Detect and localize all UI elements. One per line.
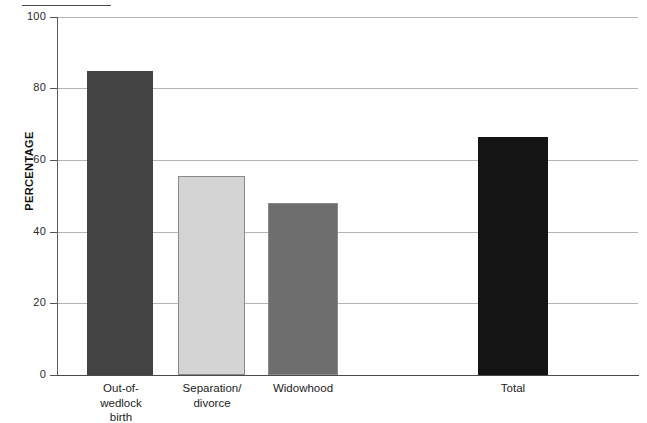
x-label-line-2: wedlock xyxy=(83,396,159,411)
bar-separation-divorce[interactable] xyxy=(178,176,245,375)
x-label-line-3: birth xyxy=(83,410,159,423)
x-label-line-1: Out-of- xyxy=(83,381,159,396)
bar-widowhood[interactable] xyxy=(268,203,338,375)
x-label-separation-divorce: Separation/ divorce xyxy=(168,381,256,410)
x-label-line-1: Widowhood xyxy=(258,381,348,396)
bar-total[interactable] xyxy=(478,137,548,375)
bar-chart-figure: 100 80 60 40 20 0 PERCENTAGE Out-of- wed… xyxy=(0,0,647,423)
x-label-line-1: Separation/ xyxy=(168,381,256,396)
x-label-widowhood: Widowhood xyxy=(258,381,348,396)
x-label-total: Total xyxy=(473,381,553,396)
bar-out-of-wedlock-birth[interactable] xyxy=(87,71,153,375)
bars-layer xyxy=(0,0,647,376)
x-label-line-1: Total xyxy=(473,381,553,396)
x-label-out-of-wedlock-birth: Out-of- wedlock birth xyxy=(83,381,159,423)
x-label-line-2: divorce xyxy=(168,396,256,411)
